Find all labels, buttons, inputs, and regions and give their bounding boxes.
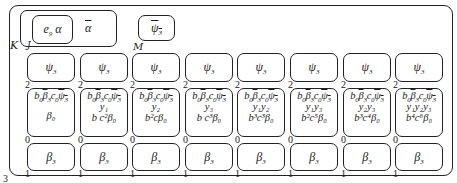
beta-port-label: 1 [183, 169, 188, 179]
psi-text: ψ3 [151, 60, 162, 75]
beta-port-label: 1 [341, 169, 346, 179]
beta-box: β3 [27, 143, 75, 171]
psi-box: ψ3 [185, 53, 233, 82]
beta-text: β3 [151, 150, 160, 165]
product-coefficient: b³c⁴β₀ [354, 113, 380, 123]
product-box: b0β3c0ψ3 y₂y₃ b³c⁴β₀ [343, 88, 391, 137]
beta-port-label: 1 [288, 169, 293, 179]
alpha-bar-text: α [85, 21, 91, 36]
product-header: b0β3c0ψ3 [139, 91, 172, 101]
beta-port-label: 1 [25, 169, 30, 179]
beta-box: β3 [237, 143, 285, 171]
product-header: b0β3c0ψ3 [34, 91, 67, 101]
beta-text: β3 [414, 150, 423, 165]
product-box: b0β3c0ψ3 y₂ b²cβ₀ [132, 88, 180, 137]
product-coefficient: b²c⁵β₀ [301, 113, 327, 123]
e9-alpha-box: e9 α [32, 15, 73, 44]
product-box: b0β3c0ψ3 y₃ b c³β₀ [185, 88, 233, 137]
beta-box: β3 [343, 143, 391, 171]
psi-box: ψ3 [290, 53, 338, 82]
beta-text: β3 [309, 150, 318, 165]
product-box: b0β3c0ψ3 y₁y₃ b²c⁵β₀ [290, 88, 338, 137]
outer-port-label: 3 [3, 174, 8, 183]
psi-box: ψ3 [132, 53, 180, 82]
k-label: K [10, 40, 18, 51]
product-vars: y₁y₃ [306, 102, 323, 112]
beta-box: β3 [132, 143, 180, 171]
product-coefficient: b c²β₀ [92, 113, 117, 123]
product-box: b0β3c0ψ3 y₁y₂y₃ b⁴c⁶β₀ [395, 88, 443, 137]
product-vars: y₁y₂ [253, 102, 270, 112]
psi-text: ψ3 [256, 60, 267, 75]
product-vars: y₂ [152, 102, 160, 112]
product-vars: y₃ [205, 102, 213, 112]
beta-text: β3 [204, 150, 213, 165]
product-header: b0β3c0ψ3 [192, 91, 225, 101]
beta-port-label: 1 [393, 169, 398, 179]
psi-text: ψ3 [204, 60, 215, 75]
beta-box: β3 [80, 143, 128, 171]
psi-text: ψ3 [309, 60, 320, 75]
psi-text: ψ3 [414, 60, 425, 75]
psi-bar-text: ψ3 [151, 21, 162, 36]
product-header: b0β3c0ψ3 [297, 91, 330, 101]
psi-box: ψ3 [27, 53, 75, 82]
psi-text: ψ3 [362, 60, 373, 75]
product-coefficient: β₀ [47, 111, 56, 121]
psi-box: ψ3 [80, 53, 128, 82]
product-header: b0β3c0ψ3 [350, 91, 383, 101]
psi-bar-box: ψ3 [138, 15, 175, 41]
product-coefficient: b⁴c⁶β₀ [406, 113, 432, 123]
beta-text: β3 [256, 150, 265, 165]
beta-text: β3 [362, 150, 371, 165]
product-vars: y₁y₂y₃ [407, 102, 432, 112]
beta-text: β3 [46, 150, 55, 165]
beta-box: β3 [290, 143, 338, 171]
j-label: J [27, 40, 31, 51]
product-header: b0β3c0ψ3 [87, 91, 120, 101]
beta-box: β3 [395, 143, 443, 171]
psi-box: ψ3 [237, 53, 285, 82]
product-vars: y₂y₃ [359, 102, 376, 112]
product-vars: y₁ [100, 102, 108, 112]
beta-box: β3 [185, 143, 233, 171]
psi-text: ψ3 [99, 60, 110, 75]
m-label: M [133, 41, 143, 52]
product-coefficient: b c³β₀ [197, 113, 222, 123]
e9-alpha-text: e9 α [43, 22, 61, 37]
product-box: b0β3c0ψ3 β₀ [27, 88, 75, 137]
product-box: b0β3c0ψ3 y₁y₂ b³c³β₀ [237, 88, 285, 137]
beta-port-label: 1 [130, 169, 135, 179]
psi-text: ψ3 [46, 60, 57, 75]
beta-text: β3 [99, 150, 108, 165]
beta-port-label: 1 [78, 169, 83, 179]
product-header: b0β3c0ψ3 [402, 91, 435, 101]
product-coefficient: b³c³β₀ [248, 113, 273, 123]
beta-port-label: 1 [235, 169, 240, 179]
psi-box: ψ3 [343, 53, 391, 82]
psi-box: ψ3 [395, 53, 443, 82]
product-box: b0β3c0ψ3 y₁ b c²β₀ [80, 88, 128, 137]
product-header: b0β3c0ψ3 [244, 91, 277, 101]
product-coefficient: b²cβ₀ [145, 113, 167, 123]
